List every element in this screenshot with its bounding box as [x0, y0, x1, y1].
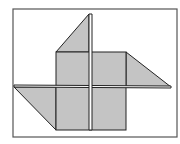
triangle-right: [126, 52, 171, 87]
vertical-bar: [89, 14, 92, 130]
triangle-bottom-left: [14, 87, 56, 130]
triangle-top: [56, 14, 89, 52]
geometric-diagram: [0, 0, 180, 144]
